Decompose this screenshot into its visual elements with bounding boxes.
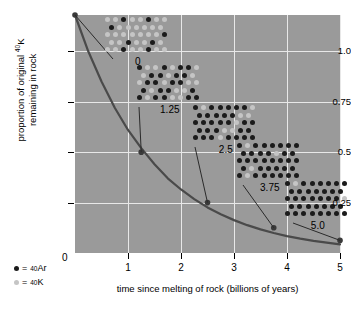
atom-ar40 bbox=[266, 151, 271, 156]
atom-k40 bbox=[154, 17, 159, 22]
atom-ar40 bbox=[249, 151, 254, 156]
atom-k40 bbox=[245, 143, 250, 148]
atom-k40 bbox=[134, 40, 139, 45]
atom-ar40 bbox=[285, 181, 290, 186]
atom-ar40 bbox=[137, 65, 142, 70]
atom-ar40 bbox=[214, 113, 219, 118]
atom-ar40 bbox=[149, 73, 154, 78]
atom-ar40 bbox=[278, 158, 283, 163]
atom-k40 bbox=[113, 32, 118, 37]
atom-ar40 bbox=[314, 189, 319, 194]
atom-ar40 bbox=[174, 73, 179, 78]
atom-ar40 bbox=[218, 105, 223, 110]
atom-ar40 bbox=[258, 166, 263, 171]
legend: =40Ar=40K bbox=[14, 262, 46, 290]
atom-ar40 bbox=[201, 120, 206, 125]
atom-ar40 bbox=[322, 189, 327, 194]
atom-k40 bbox=[249, 166, 254, 171]
atom-k40 bbox=[138, 47, 143, 52]
atom-ar40 bbox=[186, 95, 191, 100]
atom-ar40 bbox=[270, 158, 275, 163]
atom-ar40 bbox=[205, 113, 210, 118]
atom-ar40 bbox=[253, 173, 258, 178]
atom-ar40 bbox=[334, 181, 339, 186]
atom-ar40 bbox=[234, 135, 239, 140]
atom-ar40 bbox=[178, 80, 183, 85]
atom-k40 bbox=[234, 120, 239, 125]
atom-ar40 bbox=[226, 105, 231, 110]
atom-ar40 bbox=[290, 166, 295, 171]
atom-k40 bbox=[218, 135, 223, 140]
atom-k40 bbox=[274, 151, 279, 156]
atom-ar40 bbox=[182, 73, 187, 78]
decay-chart-figure: 01.252.53.755.0 1.00.750.50.25 12345 0 p… bbox=[0, 0, 351, 310]
y-axis-label-superscript: 40 bbox=[14, 45, 21, 53]
atom-ar40 bbox=[237, 173, 242, 178]
atom-ar40 bbox=[153, 80, 158, 85]
y-tick-label-0.75: 0.75 bbox=[288, 97, 351, 107]
atom-ar40 bbox=[270, 173, 275, 178]
y-tick-mark-1.0 bbox=[68, 51, 74, 52]
atom-ar40 bbox=[178, 65, 183, 70]
atom-k40 bbox=[109, 40, 114, 45]
atom-k40 bbox=[142, 40, 147, 45]
atom-k40 bbox=[113, 17, 118, 22]
atom-ar40 bbox=[230, 113, 235, 118]
atom-ar40 bbox=[162, 32, 167, 37]
atom-ar40 bbox=[146, 47, 151, 52]
cluster-label-3.75: 3.75 bbox=[250, 183, 290, 193]
x-tick-mark-1 bbox=[128, 253, 129, 259]
atom-k40 bbox=[150, 25, 155, 30]
atom-k40 bbox=[245, 173, 250, 178]
atom-ar40 bbox=[209, 135, 214, 140]
y-tick-mark-0.5 bbox=[68, 152, 74, 153]
legend-element-symbol: K bbox=[37, 276, 43, 290]
atom-ar40 bbox=[282, 151, 287, 156]
atom-k40 bbox=[146, 32, 151, 37]
atom-k40 bbox=[293, 181, 298, 186]
atom-ar40 bbox=[306, 189, 311, 194]
atom-ar40 bbox=[214, 128, 219, 133]
atom-k40 bbox=[162, 80, 167, 85]
atom-ar40 bbox=[241, 151, 246, 156]
atom-ar40 bbox=[250, 135, 255, 140]
atom-k40 bbox=[145, 95, 150, 100]
atom-ar40 bbox=[242, 135, 247, 140]
atom-ar40 bbox=[237, 143, 242, 148]
atom-ar40 bbox=[294, 158, 299, 163]
atom-cluster-0: 0 bbox=[105, 17, 171, 55]
atom-k40 bbox=[126, 25, 131, 30]
atom-k40 bbox=[117, 40, 122, 45]
atom-k40 bbox=[194, 80, 199, 85]
atom-ar40 bbox=[301, 181, 306, 186]
atom-ar40 bbox=[250, 120, 255, 125]
origin-label: 0 bbox=[62, 253, 68, 263]
atom-ar40 bbox=[190, 88, 195, 93]
atom-ar40 bbox=[297, 189, 302, 194]
atom-grid bbox=[193, 105, 259, 143]
atom-k40 bbox=[145, 65, 150, 70]
atom-ar40 bbox=[121, 47, 126, 52]
x-axis-label: time since melting of rock (billions of … bbox=[75, 283, 340, 294]
atom-k40 bbox=[230, 128, 235, 133]
atom-ar40 bbox=[146, 17, 151, 22]
y-tick-mark-0.75 bbox=[68, 102, 74, 103]
atom-k40 bbox=[134, 25, 139, 30]
x-tick-mark-2 bbox=[181, 253, 182, 259]
atom-ar40 bbox=[242, 105, 247, 110]
atom-ar40 bbox=[258, 151, 263, 156]
atom-k40 bbox=[105, 32, 110, 37]
atom-k40 bbox=[222, 128, 227, 133]
atom-k40 bbox=[174, 88, 179, 93]
atom-ar40 bbox=[121, 17, 126, 22]
atom-k40 bbox=[138, 32, 143, 37]
atom-ar40 bbox=[150, 40, 155, 45]
atom-ar40 bbox=[226, 135, 231, 140]
y-tick-label-1.0: 1.0 bbox=[288, 46, 351, 56]
atom-ar40 bbox=[170, 80, 175, 85]
legend-equals: = bbox=[22, 276, 27, 290]
atom-k40 bbox=[190, 73, 195, 78]
cluster-label-1.25: 1.25 bbox=[150, 105, 190, 115]
atom-ar40 bbox=[238, 128, 243, 133]
atom-k40 bbox=[142, 25, 147, 30]
